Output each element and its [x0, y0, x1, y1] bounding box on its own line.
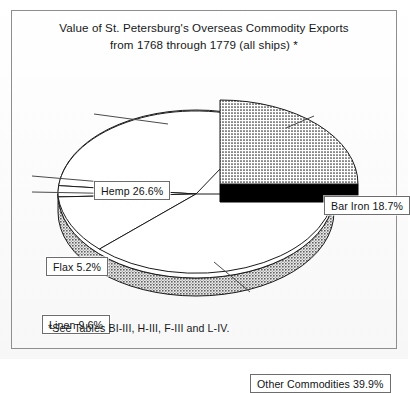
- slice-label-hemp[interactable]: Hemp 26.6%: [94, 181, 170, 200]
- chart-title-line-2: from 1768 through 1779 (all ships) *: [11, 37, 397, 54]
- pie-slice-bar-iron-group: [220, 100, 358, 202]
- slice-label-flax[interactable]: Flax 5.2%: [46, 257, 108, 276]
- chart-title: Value of St. Petersburg's Overseas Commo…: [11, 20, 397, 53]
- chart-footnote: *See Tables BI-III, H-III, F-III and L-I…: [48, 322, 229, 334]
- slice-label-bar-iron[interactable]: Bar Iron 18.7%: [324, 196, 410, 215]
- pie-chart: Hemp 26.6% Bar Iron 18.7% Flax 5.2% Line…: [18, 86, 390, 316]
- pie-slice-bar-iron: [220, 100, 358, 184]
- slice-label-other[interactable]: Other Commodities 39.9%: [250, 374, 391, 393]
- chart-title-line-1: Value of St. Petersburg's Overseas Commo…: [59, 21, 348, 34]
